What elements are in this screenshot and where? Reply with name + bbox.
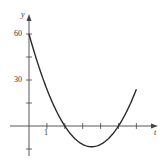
y-tick-label-30: 30 bbox=[14, 75, 22, 84]
axes bbox=[10, 19, 153, 156]
y-tick-label-60: 60 bbox=[14, 29, 22, 38]
x-axis-label: t bbox=[154, 128, 156, 137]
y-axis-arrow-icon bbox=[27, 14, 32, 21]
x-tick-label-1: 1 bbox=[44, 128, 48, 137]
chart-plot bbox=[0, 0, 165, 163]
y-axis-label: y bbox=[21, 10, 25, 19]
